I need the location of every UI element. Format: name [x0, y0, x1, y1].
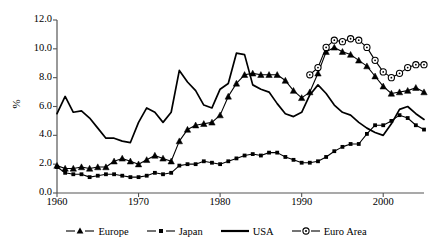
data-point-marker: [55, 165, 59, 169]
data-point-marker: [406, 116, 410, 120]
data-point-marker: [324, 155, 328, 159]
data-point-marker: [275, 151, 279, 155]
data-point-marker-center: [333, 39, 335, 41]
data-point-marker: [112, 172, 116, 176]
data-point-marker: [282, 77, 288, 83]
data-point-marker: [331, 44, 337, 50]
data-point-marker: [357, 142, 361, 146]
data-point-marker-center: [399, 72, 401, 74]
data-point-marker: [225, 93, 231, 99]
data-point-marker: [210, 161, 214, 165]
data-point-marker-center: [366, 46, 368, 48]
data-point-marker-center: [415, 64, 417, 66]
legend-item-europe[interactable]: Europe: [65, 225, 128, 237]
data-point-marker: [153, 171, 157, 175]
data-point-marker: [120, 174, 124, 178]
data-point-marker-center: [358, 39, 360, 41]
data-point-marker-center: [382, 71, 384, 73]
data-point-marker-center: [407, 67, 409, 69]
legend-swatch-circle-icon: [291, 225, 321, 237]
data-point-marker-center: [309, 74, 311, 76]
legend-swatch-triangle-icon: [65, 225, 95, 237]
data-point-marker-center: [342, 41, 344, 43]
legend-label: Euro Area: [324, 226, 367, 237]
data-point-marker: [78, 164, 84, 170]
data-point-marker: [152, 152, 158, 158]
data-point-marker: [422, 128, 426, 132]
legend-swatch-none-icon: [220, 225, 250, 237]
data-point-marker: [421, 89, 427, 95]
data-point-marker: [129, 175, 133, 179]
data-point-marker: [235, 157, 239, 161]
data-point-marker: [177, 164, 181, 168]
data-point-marker-center: [317, 67, 319, 69]
data-point-marker: [381, 123, 385, 127]
data-point-marker: [414, 123, 418, 127]
legend-item-usa[interactable]: USA: [220, 225, 274, 237]
data-point-marker-center: [423, 64, 425, 66]
data-point-marker: [398, 113, 402, 117]
data-point-marker: [364, 63, 370, 69]
data-point-marker: [243, 154, 247, 158]
legend-item-euro-area[interactable]: Euro Area: [291, 225, 367, 237]
data-point-marker-center: [350, 38, 352, 40]
data-point-marker: [194, 162, 198, 166]
legend-swatch-small-square-icon: [146, 225, 176, 237]
data-point-marker: [145, 174, 149, 178]
unemployment-rate-chart: % 0.02.04.06.08.010.012.0 19601970198019…: [0, 0, 432, 244]
data-point-marker: [218, 162, 222, 166]
series-line-europe: [57, 47, 424, 168]
data-point-marker: [144, 157, 150, 163]
data-point-marker: [96, 174, 100, 178]
data-point-marker: [300, 161, 304, 165]
data-point-marker-center: [325, 46, 327, 48]
legend-label: Europe: [98, 226, 128, 237]
data-point-marker: [413, 85, 419, 91]
data-point-marker: [184, 126, 190, 132]
data-point-marker: [202, 159, 206, 163]
data-point-marker: [80, 172, 84, 176]
data-point-marker: [341, 145, 345, 149]
data-point-marker: [259, 154, 263, 158]
plot-area: [0, 0, 432, 244]
data-point-marker-center: [390, 77, 392, 79]
data-point-marker: [283, 155, 287, 159]
data-point-marker-center: [374, 59, 376, 61]
data-point-marker: [71, 172, 75, 176]
data-point-marker: [88, 175, 92, 179]
data-point-marker: [119, 155, 125, 161]
legend-label: Japan: [179, 226, 203, 237]
data-point-marker: [63, 171, 67, 175]
data-point-marker: [356, 57, 362, 63]
data-point-marker: [316, 159, 320, 163]
data-point-marker: [292, 158, 296, 162]
data-point-marker: [308, 161, 312, 165]
data-point-marker: [251, 152, 255, 156]
data-point-marker: [161, 172, 165, 176]
chart-legend: EuropeJapanUSAEuro Area: [0, 222, 432, 240]
data-point-marker: [373, 123, 377, 127]
data-point-marker: [169, 171, 173, 175]
legend-item-japan[interactable]: Japan: [146, 225, 203, 237]
data-point-marker: [217, 112, 223, 118]
data-point-marker: [186, 162, 190, 166]
data-point-marker: [349, 142, 353, 146]
series-line-japan: [57, 115, 424, 177]
data-point-marker: [226, 159, 230, 163]
data-point-marker: [267, 151, 271, 155]
data-point-marker: [137, 175, 141, 179]
data-point-marker: [339, 49, 345, 55]
data-point-marker: [104, 172, 108, 176]
data-point-marker: [332, 149, 336, 153]
data-point-marker: [365, 132, 369, 136]
legend-label: USA: [253, 226, 274, 237]
